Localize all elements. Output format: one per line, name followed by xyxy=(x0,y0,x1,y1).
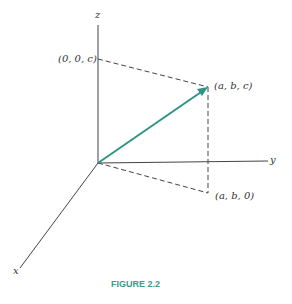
label-a-b-c: (a, b, c) xyxy=(214,80,252,91)
y-axis xyxy=(98,161,268,163)
coordinate-diagram xyxy=(0,0,292,304)
label-a-b-0: (a, b, 0) xyxy=(215,190,254,201)
figure-caption: FIGURE 2.2 xyxy=(111,279,160,289)
y-axis-label: y xyxy=(270,154,276,165)
vector-arrow xyxy=(98,90,204,163)
x-axis-label: x xyxy=(13,265,19,276)
dashed-base-edge xyxy=(98,163,208,193)
x-axis xyxy=(20,163,98,268)
dashed-top-edge xyxy=(98,59,208,87)
label-0-0-c: (0, 0, c) xyxy=(58,53,97,64)
figure-2-2: z y x (0, 0, c) (a, b, c) (a, b, 0) FIGU… xyxy=(0,0,292,304)
z-axis-label: z xyxy=(95,9,100,20)
